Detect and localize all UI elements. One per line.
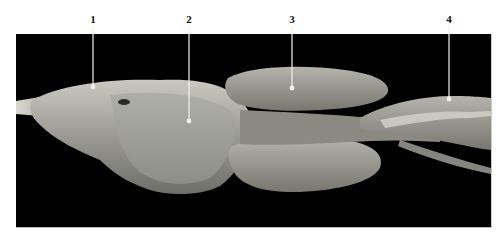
- specimen-photo: [16, 34, 492, 228]
- callout-label-1: 1: [90, 14, 96, 25]
- callout-label-3: 3: [289, 14, 295, 25]
- callout-label-2: 2: [186, 14, 192, 25]
- callout-label-4: 4: [446, 14, 452, 25]
